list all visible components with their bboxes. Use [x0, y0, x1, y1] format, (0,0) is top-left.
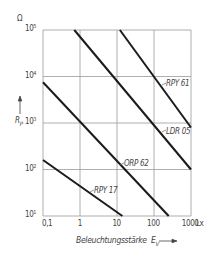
- y-tick-label: 101: [25, 211, 36, 219]
- series-label-rpy-61: RPY 61: [166, 80, 189, 88]
- y-tick-label: 102: [25, 165, 36, 173]
- y-tick-label: 105: [25, 25, 36, 33]
- x-tick-label: 1: [78, 220, 82, 228]
- label-leaders: [90, 83, 166, 192]
- y-axis-arrow: [18, 96, 21, 114]
- series-line-ldr-05: [74, 30, 191, 170]
- x-axis-label: Beleuchtungsstärke EV: [76, 236, 159, 247]
- x-unit-label: Lx: [196, 220, 203, 228]
- y-axis-label: RP: [15, 117, 23, 127]
- series-line-orp-62: [43, 82, 169, 216]
- x-tick-label: 0,1: [42, 220, 52, 228]
- y-tick-label: 103: [25, 118, 36, 126]
- series-label-ldr-05: LDR 05: [166, 128, 190, 136]
- x-axis-arrow: [159, 239, 177, 242]
- series-label-orp-62: ORP 62: [124, 160, 149, 168]
- y-unit-label: Ω: [17, 15, 22, 23]
- x-tick-label: 10: [112, 220, 120, 228]
- x-tick-label: 100: [147, 220, 160, 228]
- series-label-rpy-17: RPY 17: [94, 187, 117, 195]
- y-tick-label: 104: [25, 72, 36, 80]
